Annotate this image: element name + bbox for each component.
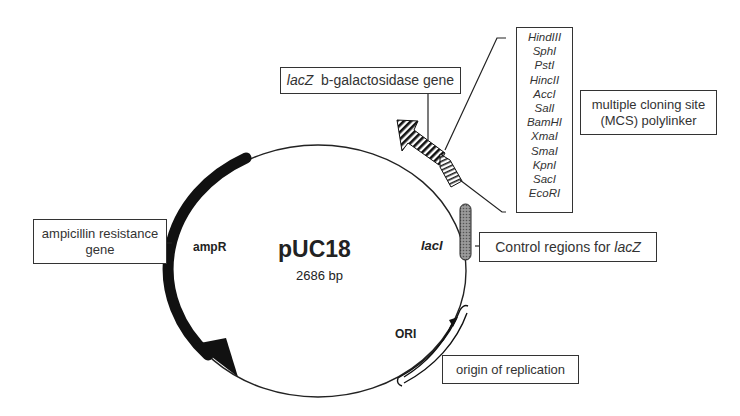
restriction-site: SmaI <box>517 144 572 158</box>
mcs-annotation-line1: multiple cloning site <box>592 97 705 112</box>
ampR-annotation-line1: ampicillin resistance <box>42 226 158 241</box>
ampR-annotation-box: ampicillin resistance gene <box>33 219 167 264</box>
lacI-control-region <box>460 204 471 260</box>
lacZ-gene-name: lacZ <box>287 72 313 88</box>
lacZ-arrow <box>397 120 462 187</box>
restriction-site: XmaI <box>517 129 572 143</box>
restriction-site: HindIII <box>517 30 572 44</box>
lacI-annotation-gene: lacZ <box>614 239 640 255</box>
ori-annotation-box: origin of replication <box>442 355 579 384</box>
mcs-annotation-line2: (MCS) polylinker <box>600 113 696 128</box>
mcs-annotation-box: multiple cloning site (MCS) polylinker <box>580 90 717 135</box>
ampR-annotation-line2: gene <box>86 242 115 257</box>
lacI-annotation-box: Control regions for lacZ <box>479 232 657 262</box>
plasmid-map <box>0 0 740 416</box>
restriction-site: SphI <box>517 44 572 58</box>
restriction-site: HincII <box>517 73 572 87</box>
restriction-site: BamHI <box>517 115 572 129</box>
lacI-annotation-prefix: Control regions for <box>495 239 614 255</box>
ori-annotation-text: origin of replication <box>456 362 565 377</box>
ampR-label: ampR <box>193 240 226 254</box>
restriction-site: EcoRI <box>517 186 572 200</box>
restriction-site: KpnI <box>517 158 572 172</box>
restriction-site: AccI <box>517 87 572 101</box>
lacI-label: lacI <box>421 238 443 253</box>
lacZ-annotation-box: lacZ b-galactosidase gene <box>280 67 461 94</box>
plasmid-size: 2686 bp <box>296 268 343 283</box>
restriction-site: SalI <box>517 101 572 115</box>
lacZ-annotation-text: b-galactosidase gene <box>321 72 454 88</box>
restriction-site: PstI <box>517 58 572 72</box>
restriction-sites-box: HindIII SphI PstI HincII AccI SalI BamHI… <box>516 27 573 213</box>
plasmid-name: pUC18 <box>278 236 351 263</box>
ori-label: ORI <box>395 327 416 341</box>
restriction-site: SacI <box>517 172 572 186</box>
ampR-arrow <box>168 158 246 377</box>
